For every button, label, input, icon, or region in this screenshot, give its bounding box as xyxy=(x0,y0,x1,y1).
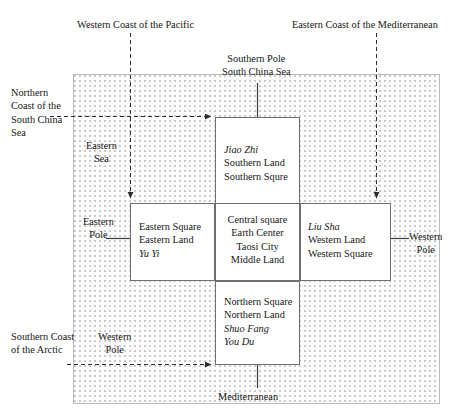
cell-central-square-line-4: Middle Land xyxy=(216,253,299,266)
cell-southern-square-line-1: Jiao Zhi xyxy=(224,143,299,156)
label-western-pole-right-line-1: Western xyxy=(409,230,442,243)
cell-southern-square-text: Jiao Zhi Southern Land Southern Squre xyxy=(216,143,299,183)
cell-northern-square-text: Northern Square Northern Land Shuo Fang … xyxy=(216,295,299,349)
label-southern-coast-of-the-arctic: Southern Coast of the Arctic xyxy=(11,330,81,357)
label-western-pole-left: Western Pole xyxy=(98,330,131,357)
label-western-pole-right-line-2: Pole xyxy=(409,243,442,256)
cell-central-square[interactable]: Central square Earth Center Taosi City M… xyxy=(215,203,300,281)
label-eastern-sea: Eastern Sea xyxy=(86,139,117,166)
cell-eastern-square-line-3: Yu Yi xyxy=(139,247,214,260)
label-eastern-pole: Eastern Pole xyxy=(83,215,114,242)
cell-northern-square-line-3: Shuo Fang xyxy=(224,322,299,335)
label-southern-pole-line-1: Southern Pole xyxy=(222,52,291,65)
cell-southern-square-line-3: Southern Squre xyxy=(224,170,299,183)
label-western-pole-left-line-2: Pole xyxy=(98,343,131,356)
cell-central-square-line-2: Earth Center xyxy=(216,226,299,239)
cell-central-square-line-3: Taosi City xyxy=(216,240,299,253)
label-western-pole-left-line-1: Western xyxy=(98,330,131,343)
label-eastern-pole-line-1: Eastern xyxy=(83,215,114,228)
cell-central-square-text: Central square Earth Center Taosi City M… xyxy=(216,213,299,267)
label-western-pole-right: Western Pole xyxy=(409,230,442,257)
cell-western-square[interactable]: Liu Sha Western Land Western Square xyxy=(300,203,391,281)
cell-eastern-square-line-2: Eastern Land xyxy=(139,233,214,246)
cell-northern-square-line-2: Northern Land xyxy=(224,308,299,321)
label-mediterranean-bottom: Mediterranean xyxy=(218,390,278,403)
cell-western-square-line-3: Western Square xyxy=(308,247,390,260)
cell-central-square-line-1: Central square xyxy=(216,213,299,226)
label-eastern-sea-line-1: Eastern xyxy=(86,139,117,152)
cell-eastern-square-text: Eastern Square Eastern Land Yu Yi xyxy=(131,220,214,260)
label-northern-coast-of-the-south-china-sea: Northern Coast of the South China Sea xyxy=(11,86,73,140)
cell-southern-square[interactable]: Jiao Zhi Southern Land Southern Squre xyxy=(215,117,300,204)
cell-western-square-line-2: Western Land xyxy=(308,233,390,246)
label-southern-pole-line-2: South China Sea xyxy=(222,65,291,78)
label-southern-pole: Southern Pole South China Sea xyxy=(222,52,291,79)
cell-northern-square-line-1: Northern Square xyxy=(224,295,299,308)
label-eastern-sea-line-2: Sea xyxy=(86,152,117,165)
label-western-coast-of-the-pacific: Western Coast of the Pacific xyxy=(77,18,194,31)
cell-eastern-square-line-1: Eastern Square xyxy=(139,220,214,233)
cell-western-square-text: Liu Sha Western Land Western Square xyxy=(301,220,390,260)
cell-northern-square[interactable]: Northern Square Northern Land Shuo Fang … xyxy=(215,281,300,365)
cell-eastern-square[interactable]: Eastern Square Eastern Land Yu Yi xyxy=(130,203,215,281)
label-eastern-coast-of-the-mediterranean: Eastern Coast of the Mediterranean xyxy=(292,18,438,31)
cell-northern-square-line-4: You Du xyxy=(224,335,299,348)
diagram-canvas: Jiao Zhi Southern Land Southern Squre Ea… xyxy=(0,0,457,420)
cell-southern-square-line-2: Southern Land xyxy=(224,156,299,169)
label-eastern-pole-line-2: Pole xyxy=(83,228,114,241)
cell-western-square-line-1: Liu Sha xyxy=(308,220,390,233)
